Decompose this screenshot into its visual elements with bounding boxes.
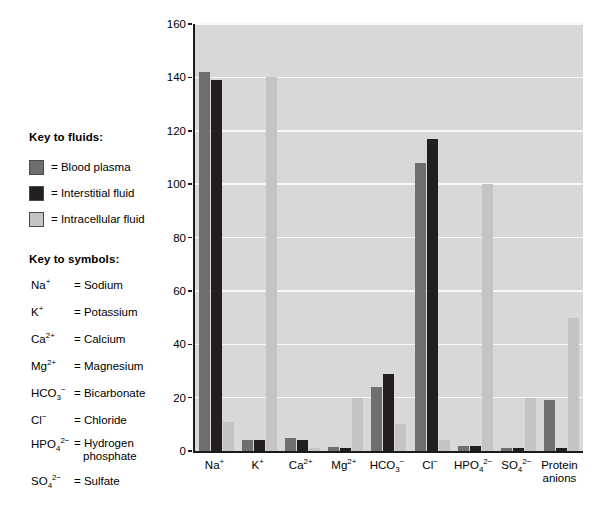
- y-tick-label: 120: [156, 126, 186, 136]
- legend-item-interstitial-fluid: = Interstitial fluid: [29, 185, 134, 201]
- bar-group: [454, 24, 497, 451]
- symbol-definition: = Sodium: [74, 278, 123, 292]
- x-tick-label: Ca2+: [279, 459, 322, 472]
- symbol-row: HPO42−= Hydrogenphosphate: [31, 437, 155, 451]
- symbol-row: Mg2+= Magnesium: [31, 359, 155, 373]
- y-tick-label: 0: [156, 446, 186, 456]
- symbol-formula: Mg2+: [31, 359, 56, 373]
- bar-group: [540, 24, 583, 451]
- y-tick-mark: [188, 183, 192, 185]
- bar: [285, 438, 296, 451]
- bar: [525, 398, 536, 451]
- x-tick-label: Na+: [193, 459, 236, 472]
- y-tick-mark: [188, 397, 192, 399]
- x-tick-label: K+: [236, 459, 279, 472]
- bar-group: [195, 24, 238, 451]
- y-tick-label: 60: [156, 286, 186, 296]
- symbol-formula: Ca2+: [31, 332, 55, 346]
- y-tick-mark: [188, 23, 192, 25]
- symbol-row: Cl−= Chloride: [31, 413, 155, 427]
- bar-chart: Total solute concentration (mEq/L) 02040…: [155, 0, 594, 508]
- bar: [309, 448, 320, 451]
- bar-group: [281, 24, 324, 451]
- bar: [371, 387, 382, 451]
- bar: [199, 72, 210, 451]
- y-tick-mark: [188, 344, 192, 346]
- symbol-formula: Na+: [31, 278, 50, 292]
- bar: [328, 447, 339, 451]
- bar: [297, 440, 308, 451]
- bar: [352, 398, 363, 451]
- symbol-definition: = Hydrogenphosphate: [74, 437, 137, 463]
- bar: [482, 184, 493, 451]
- y-tick-label: 100: [156, 179, 186, 189]
- x-tick-label: Proteinanions: [538, 459, 581, 485]
- symbol-definition: = Bicarbonate: [74, 386, 145, 400]
- legend-item-intracellular-fluid: = Intracellular fluid: [29, 211, 145, 227]
- symbol-row: Ca2+= Calcium: [31, 332, 155, 346]
- bar: [513, 448, 524, 451]
- bar-group: [367, 24, 410, 451]
- bar: [556, 448, 567, 451]
- bar: [254, 440, 265, 451]
- bar: [223, 422, 234, 451]
- symbol-row: K+= Potassium: [31, 305, 155, 319]
- symbol-formula: Cl−: [31, 413, 47, 427]
- x-tick-label: Mg2+: [322, 459, 365, 472]
- bar: [458, 446, 469, 451]
- y-tick-mark: [188, 130, 192, 132]
- x-tick-label: SO42−: [495, 459, 538, 472]
- bar: [383, 374, 394, 451]
- bar: [266, 77, 277, 451]
- symbol-definition: = Calcium: [74, 332, 125, 346]
- bar: [211, 80, 222, 451]
- key-to-fluids-heading: Key to fluids:: [29, 131, 103, 143]
- bar: [501, 448, 512, 451]
- x-tick-label: Cl−: [409, 459, 452, 472]
- symbol-formula: K+: [31, 305, 43, 319]
- key-panel: Key to fluids: = Blood plasma = Intersti…: [0, 0, 155, 508]
- y-tick-label: 20: [156, 393, 186, 403]
- bar: [395, 424, 406, 451]
- legend-swatch-interstitial-fluid: [29, 186, 44, 201]
- bar-group: [497, 24, 540, 451]
- symbol-definition: = Sulfate: [74, 474, 120, 488]
- y-tick-label: 40: [156, 339, 186, 349]
- bar: [544, 400, 555, 451]
- plot-area: [193, 24, 583, 453]
- bar: [242, 440, 253, 451]
- bar: [470, 446, 481, 451]
- bar-group: [324, 24, 367, 451]
- bar-group: [238, 24, 281, 451]
- bar: [415, 163, 426, 451]
- bar: [427, 139, 438, 451]
- symbol-formula: HCO3−: [31, 386, 66, 400]
- symbol-formula: SO42−: [31, 474, 61, 488]
- symbol-formula: HPO42−: [31, 437, 70, 451]
- bar-group: [411, 24, 454, 451]
- symbol-row: Na+= Sodium: [31, 278, 155, 292]
- key-to-symbols-heading: Key to symbols:: [29, 253, 119, 265]
- legend-swatch-intracellular-fluid: [29, 212, 44, 227]
- legend-label-blood-plasma: = Blood plasma: [51, 161, 131, 173]
- y-tick-mark: [188, 77, 192, 79]
- legend-item-blood-plasma: = Blood plasma: [29, 159, 131, 175]
- symbol-definition: = Magnesium: [74, 359, 143, 373]
- y-tick-mark: [188, 237, 192, 239]
- bar: [439, 440, 450, 451]
- legend-swatch-blood-plasma: [29, 160, 44, 175]
- legend-label-interstitial-fluid: = Interstitial fluid: [51, 187, 134, 199]
- y-tick-label: 80: [156, 233, 186, 243]
- y-tick-label: 140: [156, 72, 186, 82]
- bar: [340, 448, 351, 451]
- y-tick-label: 160: [156, 19, 186, 29]
- symbol-definition: = Chloride: [74, 413, 127, 427]
- bar: [568, 318, 579, 451]
- y-tick-mark: [188, 290, 192, 292]
- x-tick-label: HCO3−: [365, 459, 408, 472]
- symbol-row: SO42−= Sulfate: [31, 474, 155, 488]
- symbol-definition: = Potassium: [74, 305, 138, 319]
- legend-label-intracellular-fluid: = Intracellular fluid: [51, 213, 145, 225]
- symbol-row: HCO3−= Bicarbonate: [31, 386, 155, 400]
- y-tick-mark: [188, 450, 192, 452]
